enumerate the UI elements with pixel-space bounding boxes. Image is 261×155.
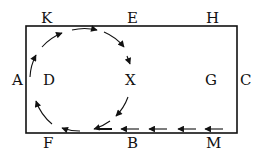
label-k: K [41,9,53,27]
label-g: G [205,71,217,89]
label-e: E [127,9,138,27]
label-c: C [240,71,251,89]
label-a: A [11,71,23,89]
label-d: D [43,71,55,89]
diagram: K E H A D X G C F B M [0,0,261,155]
label-b: B [127,134,138,152]
label-f: F [43,134,53,152]
label-x: X [125,71,136,89]
label-h: H [206,9,219,27]
label-m: M [206,134,221,152]
